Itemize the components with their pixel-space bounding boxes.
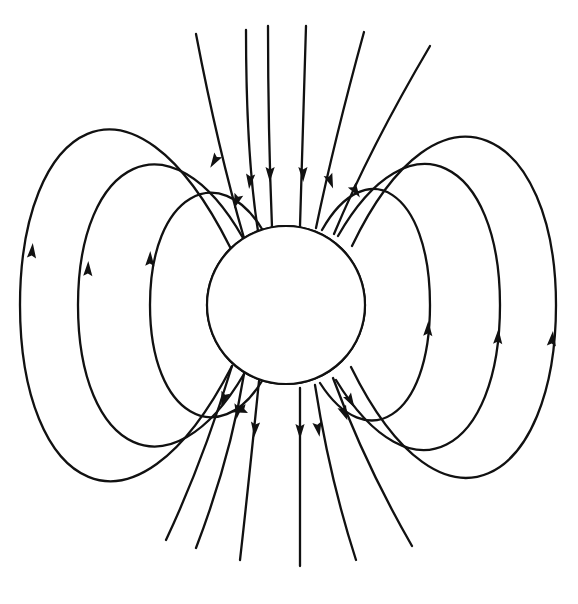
field-direction-arrow (206, 152, 222, 170)
field-line (351, 137, 556, 478)
field-line (315, 385, 356, 560)
field-line (300, 26, 306, 226)
field-diagram-canvas (0, 0, 578, 604)
arrowhead (206, 152, 222, 170)
field-line (334, 46, 430, 234)
magnetic-field-diagram: Earth's dipole magnetic field (0, 0, 578, 604)
field-line (196, 34, 244, 238)
field-line (316, 32, 364, 228)
polar-field-lines-north (196, 26, 430, 238)
field-direction-arrow (27, 243, 37, 259)
polar-field-lines-south (166, 366, 412, 566)
arrowhead (83, 261, 93, 276)
arrowhead (298, 167, 307, 182)
field-direction-arrow (298, 167, 307, 182)
field-line (246, 30, 258, 231)
earth-outline (207, 226, 365, 384)
field-line (268, 26, 272, 227)
arrowhead (27, 243, 37, 259)
field-direction-arrow (83, 261, 93, 276)
